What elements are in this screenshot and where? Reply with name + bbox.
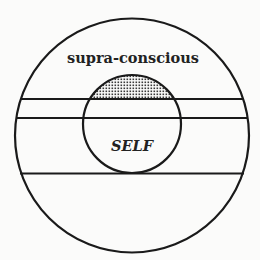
supra-conscious-label: supra-conscious bbox=[67, 49, 199, 66]
self-diagram: supra-conscious SELF bbox=[0, 0, 260, 260]
self-label: SELF bbox=[111, 137, 155, 154]
